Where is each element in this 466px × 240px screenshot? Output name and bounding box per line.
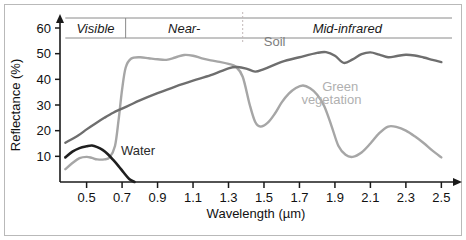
annotation-soil: Soil bbox=[264, 34, 286, 49]
x-tick-label: 0.9 bbox=[149, 190, 167, 205]
y-tick-label: 40 bbox=[37, 72, 51, 87]
x-tick-label: 2.1 bbox=[361, 190, 379, 205]
x-tick-label: 2.3 bbox=[397, 190, 415, 205]
x-tick-label: 0.5 bbox=[78, 190, 96, 205]
y-tick-label: 50 bbox=[37, 46, 51, 61]
spectral-band-bar: VisibleNear-Mid-infrared bbox=[65, 12, 452, 44]
x-tick-label: 0.7 bbox=[113, 190, 131, 205]
band-label-visible: Visible bbox=[76, 21, 114, 36]
x-axis-title: Wavelength (µm) bbox=[207, 206, 306, 221]
reflectance-chart: VisibleNear-Mid-infrared 1020304050600.5… bbox=[0, 0, 466, 240]
annotation-water: Water bbox=[121, 143, 156, 158]
y-axis-title: Reflectance (%) bbox=[8, 59, 23, 151]
y-tick-label: 60 bbox=[37, 21, 51, 36]
data-series-layer bbox=[65, 52, 441, 182]
axis-tick-labels: 1020304050600.50.70.91.11.31.51.71.92.12… bbox=[37, 21, 451, 206]
x-tick-label: 2.5 bbox=[432, 190, 450, 205]
x-tick-label: 1.9 bbox=[326, 190, 344, 205]
band-label-near: Near- bbox=[168, 21, 201, 36]
x-tick-label: 1.1 bbox=[184, 190, 202, 205]
x-tick-label: 1.5 bbox=[255, 190, 273, 205]
y-axis-arrow bbox=[56, 14, 64, 23]
x-tick-label: 1.7 bbox=[290, 190, 308, 205]
y-tick-label: 10 bbox=[37, 149, 51, 164]
y-tick-label: 30 bbox=[37, 98, 51, 113]
x-axis-arrow bbox=[453, 178, 462, 186]
x-tick-label: 1.3 bbox=[219, 190, 237, 205]
y-tick-label: 20 bbox=[37, 123, 51, 138]
band-label-mid-infrared: Mid-infrared bbox=[313, 21, 383, 36]
spectral-reflectance-figure: VisibleNear-Mid-infrared 1020304050600.5… bbox=[0, 0, 466, 240]
annotation-vegetation: vegetation bbox=[301, 92, 361, 107]
